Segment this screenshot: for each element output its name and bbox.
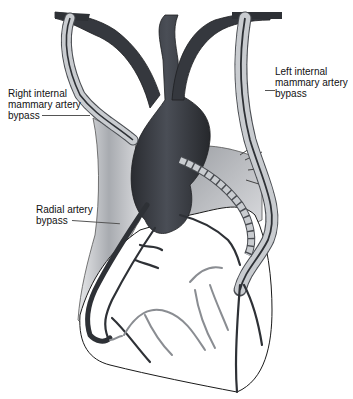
label-line: Radial artery bbox=[36, 204, 93, 215]
label-right-ima: Right internal mammary artery bypass bbox=[8, 88, 81, 121]
label-line: mammary artery bbox=[275, 77, 348, 88]
label-line: bypass bbox=[275, 88, 348, 99]
label-line: Left internal bbox=[275, 66, 348, 77]
label-radial: Radial artery bypass bbox=[36, 204, 93, 226]
label-line: mammary artery bbox=[8, 99, 81, 110]
label-left-ima: Left internal mammary artery bypass bbox=[275, 66, 348, 99]
heart-bypass-illustration bbox=[0, 0, 353, 399]
leader-right-ima bbox=[42, 115, 90, 116]
label-line: Right internal bbox=[8, 88, 81, 99]
leader-left-ima bbox=[265, 90, 275, 91]
